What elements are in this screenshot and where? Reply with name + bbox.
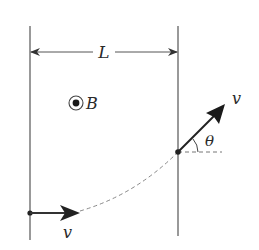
field-dot-icon: [73, 100, 80, 107]
entry-velocity-label: v: [63, 223, 72, 242]
exit-velocity-label: v: [232, 89, 241, 108]
width-label: L: [97, 42, 109, 62]
entry-velocity: v: [27, 205, 80, 242]
width-dimension: L: [31, 42, 177, 62]
angle-label: θ: [205, 132, 214, 150]
magnetic-field-region-diagram: L B v θ v: [0, 0, 259, 250]
exit-velocity: θ v: [175, 89, 241, 155]
trajectory-arc: [80, 152, 178, 211]
angle-arc: [193, 139, 198, 152]
exit-point: [175, 149, 181, 155]
magnetic-field-out-of-page: B: [69, 94, 98, 113]
field-label: B: [85, 94, 98, 113]
